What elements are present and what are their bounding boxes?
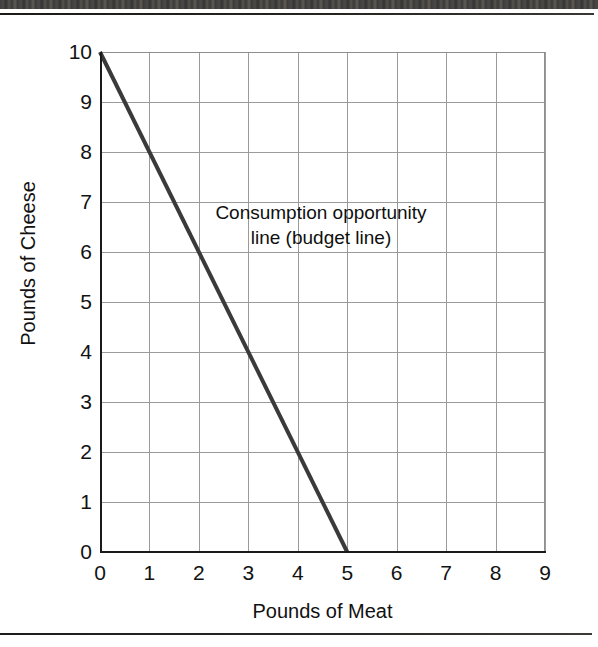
x-axis-tick-labels: 0123456789 <box>100 562 545 590</box>
y-tick-label: 5 <box>54 291 92 312</box>
chart-figure: Consumption opportunity line (budget lin… <box>0 16 598 631</box>
y-tick-label: 0 <box>54 541 92 562</box>
x-tick-label: 9 <box>525 562 565 583</box>
y-axis-title: Pounds of Cheese <box>17 154 40 374</box>
x-tick-label: 5 <box>327 562 367 583</box>
x-tick-label: 4 <box>278 562 318 583</box>
plot-area: Consumption opportunity line (budget lin… <box>100 52 545 552</box>
bottom-horizontal-rule <box>0 633 592 635</box>
y-tick-label: 7 <box>54 191 92 212</box>
y-tick-label: 4 <box>54 341 92 362</box>
y-tick-label: 9 <box>54 91 92 112</box>
budget-line <box>100 52 347 552</box>
x-axis-title: Pounds of Meat <box>100 600 545 623</box>
x-tick-label: 2 <box>179 562 219 583</box>
x-tick-label: 6 <box>377 562 417 583</box>
y-tick-label: 6 <box>54 241 92 262</box>
x-tick-label: 1 <box>129 562 169 583</box>
y-tick-label: 1 <box>54 491 92 512</box>
y-axis-tick-labels: 012345678910 <box>40 52 92 552</box>
y-tick-label: 10 <box>54 41 92 62</box>
y-tick-label: 3 <box>54 391 92 412</box>
x-axis-line <box>100 551 546 553</box>
y-tick-label: 8 <box>54 141 92 162</box>
figure-page: Consumption opportunity line (budget lin… <box>0 0 598 647</box>
top-horizontal-rule <box>0 13 594 15</box>
gridline-vertical <box>545 52 546 552</box>
scan-artifact-band <box>0 0 598 9</box>
x-tick-label: 3 <box>228 562 268 583</box>
x-tick-label: 0 <box>80 562 120 583</box>
y-axis-line <box>100 52 102 553</box>
x-tick-label: 8 <box>476 562 516 583</box>
budget-line-series <box>100 52 545 552</box>
budget-line-annotation: Consumption opportunity line (budget lin… <box>176 200 466 250</box>
y-tick-label: 2 <box>54 441 92 462</box>
x-tick-label: 7 <box>426 562 466 583</box>
